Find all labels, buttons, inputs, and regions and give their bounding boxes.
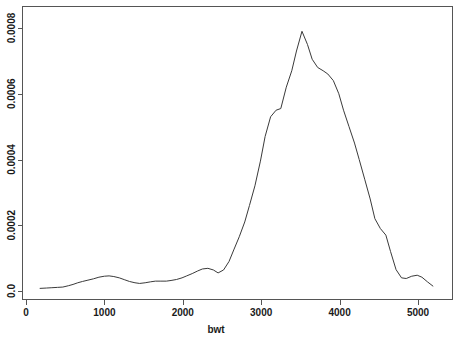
x-tick-label: 3000 [250, 307, 273, 318]
y-tick-label: 0.0004 [6, 144, 17, 175]
density-curve [40, 31, 433, 288]
x-tick-label: 0 [23, 307, 29, 318]
y-axis-ticks [18, 29, 23, 292]
x-tick-label: 4000 [328, 307, 351, 318]
y-tick-label: 0.0002 [6, 210, 17, 241]
density-plot: 0.00.00020.00040.00060.0008 010002000300… [0, 0, 458, 342]
y-axis-tick-labels: 0.00.00020.00040.00060.0008 [6, 12, 17, 298]
x-tick-label: 1000 [93, 307, 116, 318]
y-tick-label: 0.0006 [6, 78, 17, 109]
x-axis-ticks [27, 300, 419, 305]
y-tick-label: 0.0008 [6, 12, 17, 43]
x-axis-tick-labels: 010002000300040005000 [23, 307, 429, 318]
x-tick-label: 2000 [172, 307, 195, 318]
x-tick-label: 5000 [407, 307, 430, 318]
plot-frame [23, 7, 453, 300]
plot-svg: 0.00.00020.00040.00060.0008 010002000300… [0, 0, 458, 342]
x-axis-title: bwt [207, 324, 225, 335]
y-tick-label: 0.0 [6, 284, 17, 298]
